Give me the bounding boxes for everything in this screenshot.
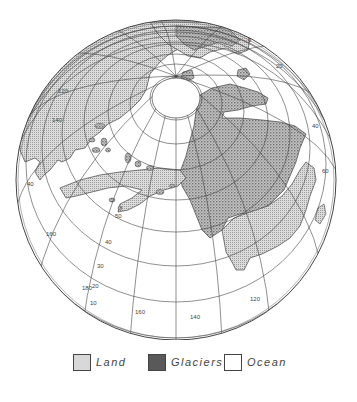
latitude-label: 20: [92, 283, 99, 289]
ocean-swatch: [224, 354, 242, 371]
latitude-label: 30: [97, 263, 104, 269]
longitude-label: 120: [58, 88, 69, 94]
latitude-label: 20: [276, 63, 283, 69]
legend-item-land: Land: [73, 352, 126, 372]
legend-label-ocean: Ocean: [247, 356, 287, 368]
longitude-label: 160: [135, 309, 146, 315]
legend-item-glaciers: Glaciers: [148, 352, 223, 372]
longitude-label: 140: [52, 117, 63, 123]
latitude-label: 40: [312, 123, 319, 129]
latitude-label: 40: [27, 181, 34, 187]
legend-item-ocean: Ocean: [224, 352, 287, 372]
north-pole-cap: [152, 78, 200, 118]
longitude-label: 160: [46, 231, 57, 237]
longitude-label: 180: [82, 285, 93, 291]
globe-map: 0204060405040302010 12014016018016014012…: [0, 0, 357, 340]
latitude-label: 60: [322, 168, 329, 174]
glaciers-swatch: [148, 354, 166, 371]
longitude-label: 140: [190, 314, 201, 320]
longitude-label: 120: [250, 296, 261, 302]
land-swatch: [73, 354, 91, 371]
latitude-label: 50: [115, 213, 122, 219]
latitude-label: 10: [90, 300, 97, 306]
legend-label-land: Land: [96, 356, 126, 368]
map-legend: Land Glaciers Ocean: [0, 348, 357, 378]
legend-label-glaciers: Glaciers: [171, 356, 223, 368]
latitude-label: 40: [105, 239, 112, 245]
